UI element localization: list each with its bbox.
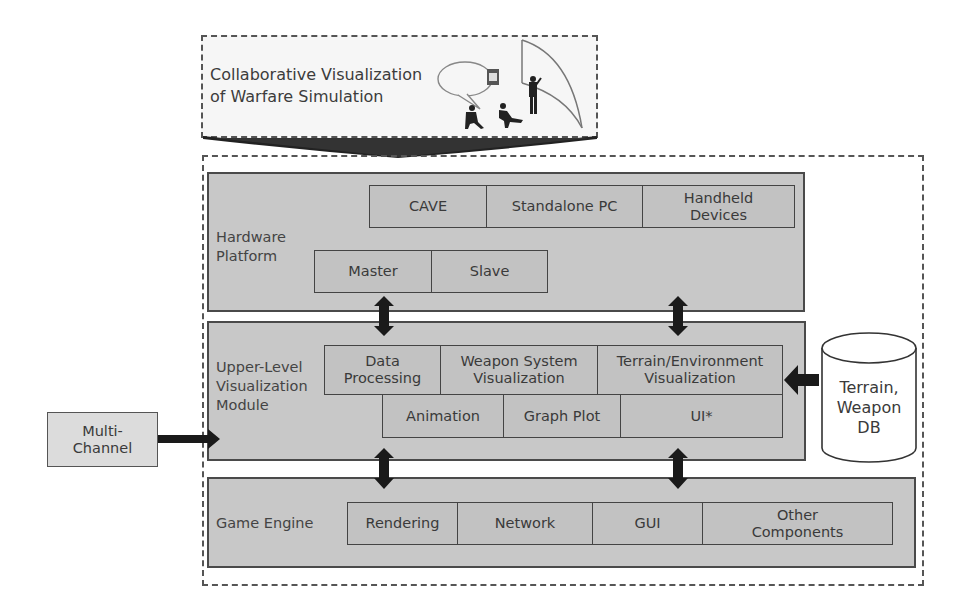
hardware-handheld-devices: Handheld Devices: [642, 185, 795, 228]
collaboration-illustration-icon: [438, 40, 582, 129]
engine-network: Network: [457, 502, 593, 545]
multi-channel-box: Multi- Channel: [47, 412, 158, 467]
upper-terrain-environment-visualization: Terrain/Environment Visualization: [597, 345, 783, 395]
terrain-environment-line1: Terrain/Environment: [617, 353, 764, 370]
game-engine-label: Game Engine: [216, 514, 313, 533]
upper-data-processing: Data Processing: [324, 345, 441, 395]
network-label: Network: [495, 515, 556, 532]
weapon-system-line2: Visualization: [460, 370, 577, 387]
multi-channel-line2: Channel: [73, 440, 133, 457]
hardware-cave: CAVE: [369, 185, 487, 228]
multi-channel-line1: Multi-: [73, 423, 133, 440]
upper-label-line1: Upper-Level: [216, 358, 308, 377]
animation-label: Animation: [406, 408, 480, 425]
engine-gui: GUI: [592, 502, 703, 545]
other-components-line1: Other: [752, 507, 844, 524]
upper-animation: Animation: [382, 394, 504, 438]
db-label-line1: Terrain,: [822, 378, 916, 398]
hardware-cave-label: CAVE: [409, 198, 447, 215]
hardware-handheld-label-line2: Devices: [684, 207, 754, 224]
data-processing-line2: Processing: [344, 370, 421, 387]
cave-master: Master: [314, 250, 432, 293]
upper-label-line2: Visualization: [216, 377, 308, 396]
upper-label-line3: Module: [216, 396, 308, 415]
db-label-line2: Weapon: [822, 398, 916, 418]
database-label: Terrain, Weapon DB: [822, 378, 916, 438]
engine-other-components: Other Components: [702, 502, 893, 545]
hardware-platform-label: Hardware Platform: [216, 228, 286, 266]
upper-graph-plot: Graph Plot: [503, 394, 621, 438]
hardware-label-line2: Platform: [216, 247, 286, 266]
terrain-environment-line2: Visualization: [617, 370, 764, 387]
weapon-system-line1: Weapon System: [460, 353, 577, 370]
cave-slave: Slave: [431, 250, 548, 293]
ui-label: UI*: [690, 408, 712, 425]
hardware-standalone-pc-label: Standalone PC: [512, 198, 618, 215]
hardware-handheld-label-line1: Handheld: [684, 190, 754, 207]
other-components-line2: Components: [752, 524, 844, 541]
gui-label: GUI: [634, 515, 660, 532]
graph-plot-label: Graph Plot: [524, 408, 600, 425]
hardware-label-line1: Hardware: [216, 228, 286, 247]
db-label-line3: DB: [822, 418, 916, 438]
rendering-label: Rendering: [365, 515, 439, 532]
cave-slave-label: Slave: [470, 263, 510, 280]
data-processing-line1: Data: [344, 353, 421, 370]
upper-weapon-system-visualization: Weapon System Visualization: [440, 345, 598, 395]
cave-master-label: Master: [348, 263, 398, 280]
upper-ui: UI*: [620, 394, 783, 438]
engine-rendering: Rendering: [347, 502, 458, 545]
upper-level-module-label: Upper-Level Visualization Module: [216, 358, 308, 415]
hardware-standalone-pc: Standalone PC: [486, 185, 643, 228]
